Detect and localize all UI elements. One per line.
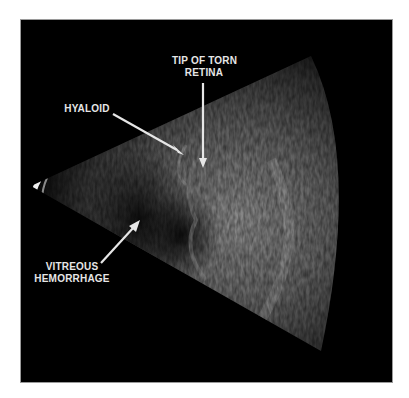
label-line: TIP OF TORN <box>172 55 236 67</box>
label-line: HYALOID <box>62 103 112 115</box>
vitreous-hemorrhage-label: VITREOUS HEMORRHAGE <box>30 261 114 285</box>
label-line: VITREOUS <box>30 261 114 273</box>
tip-of-torn-retina-label: TIP OF TORN RETINA <box>172 55 236 79</box>
label-line: HEMORRHAGE <box>30 273 114 285</box>
hyaloid-label: HYALOID <box>62 103 112 115</box>
label-line: RETINA <box>172 67 236 79</box>
